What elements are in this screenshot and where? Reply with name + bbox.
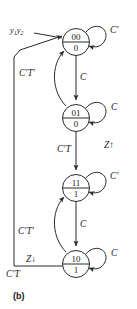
state-code-11: 11 (72, 178, 81, 188)
annotation-z-fall: Z↓ (26, 254, 36, 264)
state-variable-pointer-line (34, 33, 62, 38)
self-loop-label-11: C′ (110, 171, 119, 181)
state-output-10: 1 (74, 265, 79, 275)
state-node-01[interactable]: 01 0 (63, 105, 90, 132)
transition-label-10-to-00: C′T (6, 269, 20, 279)
state-code-00: 00 (72, 32, 82, 42)
transition-label-01-to-00: C′T′ (19, 68, 36, 78)
annotation-z-rise: Z↑ (104, 140, 114, 150)
transition-label-01-to-11: C′T (57, 144, 71, 154)
state-node-00[interactable]: 00 0 (63, 29, 90, 56)
transition-label-00-to-01: C (80, 72, 87, 82)
transition-label-10-to-11: C′T′ (18, 226, 35, 236)
figure-state-diagram: 00 0 01 0 11 1 10 1 y1y2 (0, 0, 137, 309)
self-loop-label-00: C′ (110, 25, 119, 35)
transition-label-11-to-10: C (80, 219, 87, 229)
self-loop-label-10: C (111, 248, 118, 258)
state-code-10: 10 (72, 254, 82, 264)
self-loop-label-01: C (111, 102, 118, 112)
transition-10-to-11-path (54, 197, 66, 252)
state-output-01: 0 (74, 119, 79, 129)
state-output-00: 0 (74, 43, 79, 53)
state-node-10[interactable]: 10 1 (63, 251, 90, 278)
state-variable-label: y1y2 (9, 25, 24, 36)
state-output-11: 1 (74, 189, 79, 199)
state-var-y1: y1y2 (9, 25, 24, 36)
state-node-11[interactable]: 11 1 (63, 175, 90, 202)
state-diagram-canvas: 00 0 01 0 11 1 10 1 y1y2 (0, 0, 137, 309)
state-code-01: 01 (72, 108, 81, 118)
figure-caption: (b) (13, 291, 25, 301)
transition-01-to-00-path (54, 51, 66, 106)
